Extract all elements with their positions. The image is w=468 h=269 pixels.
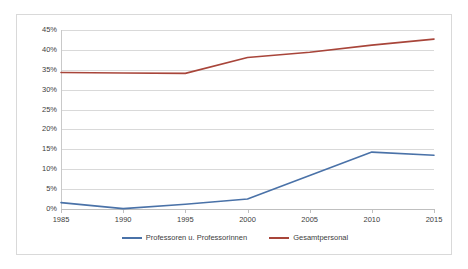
legend-color-swatch [269,237,289,239]
legend-item[interactable]: Professoren u. Professorinnen [122,233,247,242]
legend-item-label: Gesamtpersonal [293,233,348,242]
series-line [61,152,434,208]
plot-wrapper: 45%40%35%30%25%20%15%10%5%0% 19851990199… [17,15,453,256]
legend-item-label: Professoren u. Professorinnen [146,233,247,242]
series-line [61,39,434,73]
legend-item[interactable]: Gesamtpersonal [269,233,348,242]
chart-legend: Professoren u. ProfessorinnenGesamtperso… [17,233,453,242]
series-lines [17,15,453,256]
legend-color-swatch [122,237,142,239]
chart-container: 45%40%35%30%25%20%15%10%5%0% 19851990199… [16,14,452,255]
